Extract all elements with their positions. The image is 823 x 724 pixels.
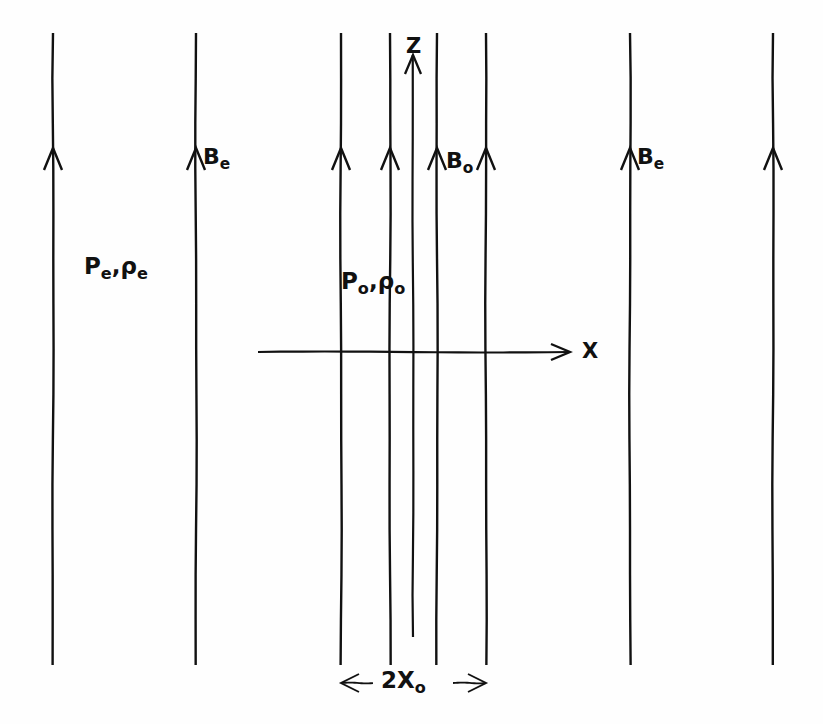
field-line-internal-2: [389, 33, 390, 665]
density-symbol-subscript: o: [394, 279, 405, 298]
pressure-symbol-subscript: e: [101, 264, 112, 283]
field-line-external-right-2: [772, 33, 773, 665]
z-axis: [405, 55, 421, 637]
field-symbol-subscript: o: [463, 159, 474, 177]
pressure-density-label-external: Pe,ρe: [84, 255, 148, 282]
field-symbol-base: B: [637, 144, 654, 169]
field-symbol-subscript: e: [654, 155, 664, 173]
density-symbol-base: ρ: [378, 268, 394, 294]
field-line-external-right-1: [629, 33, 630, 665]
field-symbol-base: B: [203, 144, 220, 169]
dimension-line-left: [341, 683, 373, 684]
pressure-symbol-subscript: o: [358, 279, 369, 298]
magnetic-field-label-external-right: Be: [637, 146, 664, 172]
density-symbol-subscript: e: [137, 264, 148, 283]
x-axis-line: [258, 352, 570, 353]
density-symbol-base: ρ: [121, 253, 137, 279]
field-symbol-base: B: [446, 148, 463, 173]
field-line-external-left-2: [195, 33, 196, 665]
figure-canvas: Z X Be Bo Be Pe,ρe Po,ρo 2Xo: [0, 0, 823, 724]
z-axis-line: [412, 55, 413, 637]
field-line-internal-4: [485, 33, 486, 665]
label-separator: ,: [112, 253, 121, 279]
dimension-line-right: [453, 683, 486, 684]
z-axis-label: Z: [406, 36, 421, 57]
pressure-density-label-internal: Po,ρo: [341, 270, 405, 297]
pressure-symbol-base: P: [341, 268, 358, 294]
slab-width-label: 2Xo: [381, 669, 426, 696]
x-axis-label: X: [582, 341, 598, 362]
diagram-svg: [0, 0, 823, 724]
label-separator: ,: [369, 268, 378, 294]
slab-width-base: 2X: [381, 667, 415, 693]
field-line-external-left-1: [52, 33, 53, 665]
pressure-symbol-base: P: [84, 253, 101, 279]
field-symbol-subscript: e: [220, 155, 230, 173]
magnetic-field-label-external-left: Be: [203, 146, 230, 172]
field-line-internal-3: [436, 33, 437, 665]
slab-width-subscript: o: [415, 678, 426, 697]
field-line-internal-1: [340, 33, 341, 665]
magnetic-field-label-internal: Bo: [446, 150, 473, 176]
